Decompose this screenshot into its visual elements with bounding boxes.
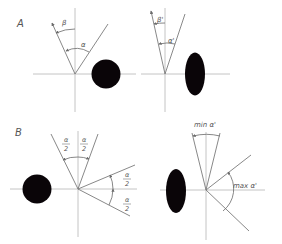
min-angle-arc — [193, 134, 220, 136]
elliptical-object — [185, 53, 205, 96]
circular-object — [92, 60, 121, 89]
max-angle-arc — [223, 172, 234, 211]
half-angle-arc-left — [63, 157, 78, 160]
panel-a-right: β' α' — [141, 8, 230, 112]
svg-text:2: 2 — [64, 145, 68, 153]
frac-label-2: α 2 — [80, 136, 88, 153]
svg-text:α: α — [125, 171, 130, 179]
half-angle-arc-down — [109, 189, 113, 205]
beta-label: β — [62, 19, 67, 27]
beta-prime-label: β' — [157, 16, 163, 24]
min-ray-right — [206, 133, 220, 190]
frac-label-3: α 2 — [123, 171, 131, 188]
half-angle-arc-right — [78, 157, 89, 159]
half-angle-arc-up — [110, 175, 113, 189]
max-alpha-prime-label: max α' — [233, 182, 257, 190]
panel-b-right: min α' max α' — [160, 121, 265, 240]
elliptical-object — [166, 169, 186, 213]
max-ray-down — [206, 190, 249, 231]
beta-arc — [56, 29, 75, 33]
svg-text:α: α — [125, 196, 130, 204]
panel-label-a: A — [16, 18, 24, 29]
min-alpha-prime-label: min α' — [194, 121, 216, 129]
svg-text:2: 2 — [125, 205, 129, 213]
diagram-canvas: A β α β' α' B α — [0, 0, 282, 244]
min-ray-left — [192, 133, 206, 190]
alpha-label: α — [81, 41, 86, 49]
frac-label-4: α 2 — [123, 196, 131, 213]
alpha-arc — [66, 49, 89, 52]
frac-label-1: α 2 — [62, 136, 70, 153]
panel-a-left: A β α — [16, 8, 136, 112]
svg-text:2: 2 — [82, 145, 86, 153]
svg-text:2: 2 — [125, 180, 129, 188]
svg-text:α: α — [82, 136, 87, 144]
alpha-prime-label: α' — [168, 37, 175, 45]
panel-label-b: B — [15, 127, 22, 138]
ray-upper-right — [78, 134, 98, 189]
svg-text:α: α — [64, 136, 69, 144]
panel-b-left: B α 2 α 2 α 2 α 2 — [10, 127, 137, 237]
circular-object — [23, 175, 52, 204]
ray-right-down — [78, 189, 130, 216]
